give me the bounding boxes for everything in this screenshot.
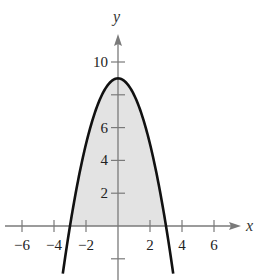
y-tick-label: 4 [101,152,109,168]
parabola-chart: −6−4−224624610 x y [0,0,266,280]
y-tick-label: 6 [101,120,109,136]
y-tick-label: 10 [93,54,108,70]
x-tick-label: −4 [46,237,62,253]
x-tick-label: 4 [178,237,186,253]
x-tick-label: 6 [210,237,218,253]
x-tick-label: −6 [14,237,30,253]
x-tick-label: −2 [78,237,94,253]
y-axis-label: y [111,8,121,26]
x-tick-label: 2 [146,237,154,253]
x-axis-label: x [245,217,253,234]
y-tick-label: 2 [101,185,109,201]
